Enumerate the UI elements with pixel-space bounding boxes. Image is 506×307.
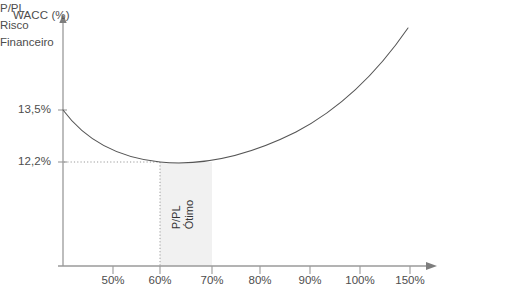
x-tick-marks <box>113 266 410 274</box>
chart-canvas: WACC (%) 13,5% 12,2% 50% 60% 70% 80% 90%… <box>0 0 506 307</box>
x-axis-arrow-icon <box>426 262 437 270</box>
wacc-curve-plot <box>0 0 506 307</box>
y-tick-label-12-2: 12,2% <box>18 156 51 168</box>
x-tick-label-90: 90% <box>298 274 321 286</box>
x-tick-label-70: 70% <box>200 274 223 286</box>
optimal-band-label-line-2: Ótimo <box>183 200 196 229</box>
x-tick-label-80: 80% <box>248 274 271 286</box>
x-tick-label-60: 60% <box>148 274 171 286</box>
wacc-curve <box>63 28 408 163</box>
x-tick-label-50: 50% <box>101 274 124 286</box>
y-axis-title: WACC (%) <box>13 10 70 22</box>
x-tick-label-150: 150% <box>395 274 424 286</box>
optimal-band-label: P/PL Ótimo <box>170 200 196 229</box>
y-tick-label-13-5: 13,5% <box>18 104 51 116</box>
optimal-band-label-line-1: P/PL <box>170 200 183 229</box>
x-tick-label-100: 100% <box>345 274 374 286</box>
